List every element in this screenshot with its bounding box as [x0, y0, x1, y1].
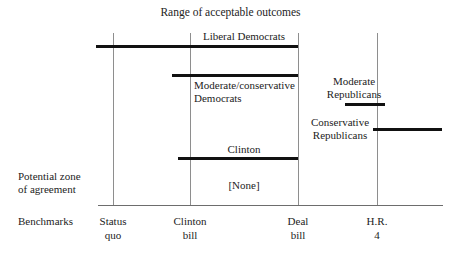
benchmark-label-clinton-bill-line1: Clinton — [160, 215, 220, 228]
range-label-conservative-republicans-line1: Conservative — [305, 116, 375, 129]
range-bar-liberal-democrats — [96, 45, 298, 48]
figure-range-of-acceptable-outcomes: Range of acceptable outcomes Liberal Dem… — [0, 0, 461, 255]
range-bar-clinton — [178, 157, 298, 160]
benchmark-label-status-quo-line2: quo — [83, 229, 143, 242]
range-bar-moderate-conservative-democrats — [172, 74, 298, 77]
potential-zone-value: [None] — [190, 179, 298, 192]
range-label-moderate-republicans-line1: Moderate — [322, 75, 386, 88]
benchmark-label-deal-bill-line2: bill — [268, 229, 328, 242]
range-label-clinton: Clinton — [190, 143, 298, 156]
benchmark-line-hr-4 — [377, 33, 378, 206]
range-label-conservative-republicans-line2: Republicans — [305, 129, 375, 142]
benchmark-label-clinton-bill-line2: bill — [160, 229, 220, 242]
range-label-moderate-conservative-democrats-line1: Moderate/conservative — [194, 79, 304, 92]
benchmark-label-hr-4-line1: H.R. — [347, 215, 407, 228]
range-label-liberal-democrats: Liberal Democrats — [190, 30, 298, 43]
benchmark-label-deal-bill-line1: Deal — [268, 215, 328, 228]
range-label-moderate-conservative-democrats-line2: Democrats — [194, 92, 304, 105]
benchmark-line-status-quo — [113, 33, 114, 206]
range-bar-conservative-republicans — [373, 128, 442, 131]
potential-zone-label-line2: of agreement — [18, 183, 110, 196]
benchmarks-axis-line — [98, 205, 443, 206]
range-label-moderate-republicans-line2: Republicans — [322, 88, 386, 101]
chart-title: Range of acceptable outcomes — [0, 6, 461, 19]
benchmark-line-deal-bill — [298, 33, 299, 206]
benchmark-label-hr-4-line2: 4 — [347, 229, 407, 242]
range-bar-moderate-republicans — [345, 103, 385, 106]
potential-zone-label-line1: Potential zone — [18, 170, 110, 183]
benchmark-label-status-quo-line1: Status — [83, 215, 143, 228]
